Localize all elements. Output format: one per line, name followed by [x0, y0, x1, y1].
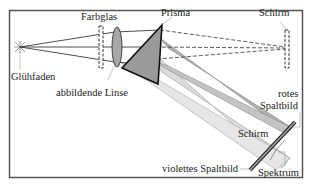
prism-spectrum-diagram: Farbglas Prisma Schirm Glühfaden abbilde… — [0, 0, 310, 185]
filament-icon — [14, 41, 26, 53]
label-linse: abbildende Linse — [56, 87, 128, 98]
label-spektrum: Spektrum — [258, 167, 299, 178]
label-violettes: violettes Spaltbild — [162, 163, 239, 174]
label-prisma: Prisma — [161, 7, 191, 18]
label-gluehfaden: Glühfaden — [11, 71, 56, 82]
label-schirm-top: Schirm — [259, 7, 289, 18]
top-screen — [285, 30, 289, 68]
color-filter — [99, 26, 103, 68]
label-schirm-bottom: Schirm — [238, 128, 268, 139]
linse-leader — [108, 62, 116, 80]
label-rotes: rotes — [278, 88, 298, 99]
label-spaltbild: Spaltbild — [260, 100, 299, 111]
lens — [112, 27, 122, 67]
prism — [122, 25, 162, 84]
schirm-top-leader — [280, 22, 287, 30]
label-farbglas: Farbglas — [81, 11, 117, 22]
prisma-leader — [162, 17, 172, 25]
